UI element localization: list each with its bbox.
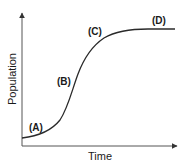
logistic-growth-chart: (A) (B) (C) (D) Time Population (0, 0, 182, 163)
growth-curve (22, 29, 175, 138)
point-label-d: (D) (152, 15, 166, 26)
point-label-b: (B) (57, 76, 71, 87)
point-label-a: (A) (29, 122, 43, 133)
x-axis-label: Time (88, 150, 112, 162)
point-label-c: (C) (88, 26, 102, 37)
y-axis-label: Population (6, 53, 18, 105)
